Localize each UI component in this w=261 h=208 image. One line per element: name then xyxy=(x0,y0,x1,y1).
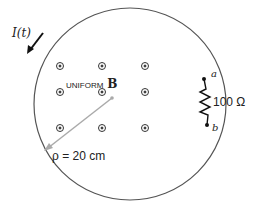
current-arrow xyxy=(30,33,43,50)
terminal-b-label: b xyxy=(212,122,218,133)
current-label: I(t) xyxy=(12,26,31,40)
terminal-a-dot xyxy=(202,77,206,81)
field-label-symbol: B xyxy=(107,77,117,91)
center-dot xyxy=(110,96,114,100)
resistor-label: 100 Ω xyxy=(213,95,245,109)
field-label-prefix: UNIFORM xyxy=(66,81,103,90)
radius-label: ρ = 20 cm xyxy=(52,149,105,163)
radius-line xyxy=(48,98,112,148)
field-markers xyxy=(57,63,149,132)
terminal-a-label: a xyxy=(211,68,217,79)
field-label: UNIFORM B xyxy=(66,74,117,92)
terminal-b-dot xyxy=(205,123,209,127)
